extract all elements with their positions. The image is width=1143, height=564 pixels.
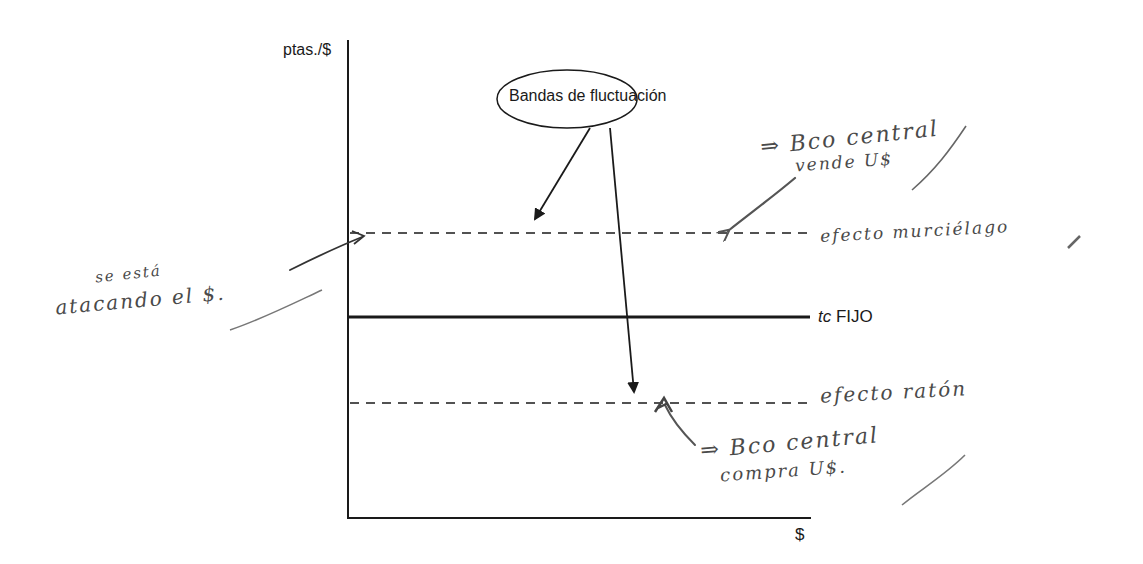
pencil-arrow-upper-right: [728, 178, 795, 231]
fixed-rate-label: tc FIJO: [818, 307, 873, 327]
y-axis-label: ptas./$: [283, 41, 331, 59]
diagram-canvas: [0, 0, 1143, 564]
fluctuation-band-diagram: ptas./$ $ tc FIJO Bandas de fluctuación …: [0, 0, 1143, 564]
fixed-rate-text: FIJO: [836, 307, 873, 326]
callout-arrow-upper: [535, 128, 590, 219]
pencil-strike-lower: [902, 455, 965, 505]
callout-label: Bandas de fluctuación: [509, 87, 666, 105]
pencil-mark-lower: [655, 398, 672, 412]
pencil-underline-left: [230, 290, 322, 330]
fixed-rate-prefix: tc: [818, 307, 831, 326]
x-axis-label: $: [795, 525, 804, 545]
pencil-arrow-left: [290, 237, 362, 270]
pencil-arrow-lower: [665, 405, 695, 445]
pencil-mark-right: [1068, 236, 1080, 248]
callout-arrow-lower: [610, 128, 634, 392]
